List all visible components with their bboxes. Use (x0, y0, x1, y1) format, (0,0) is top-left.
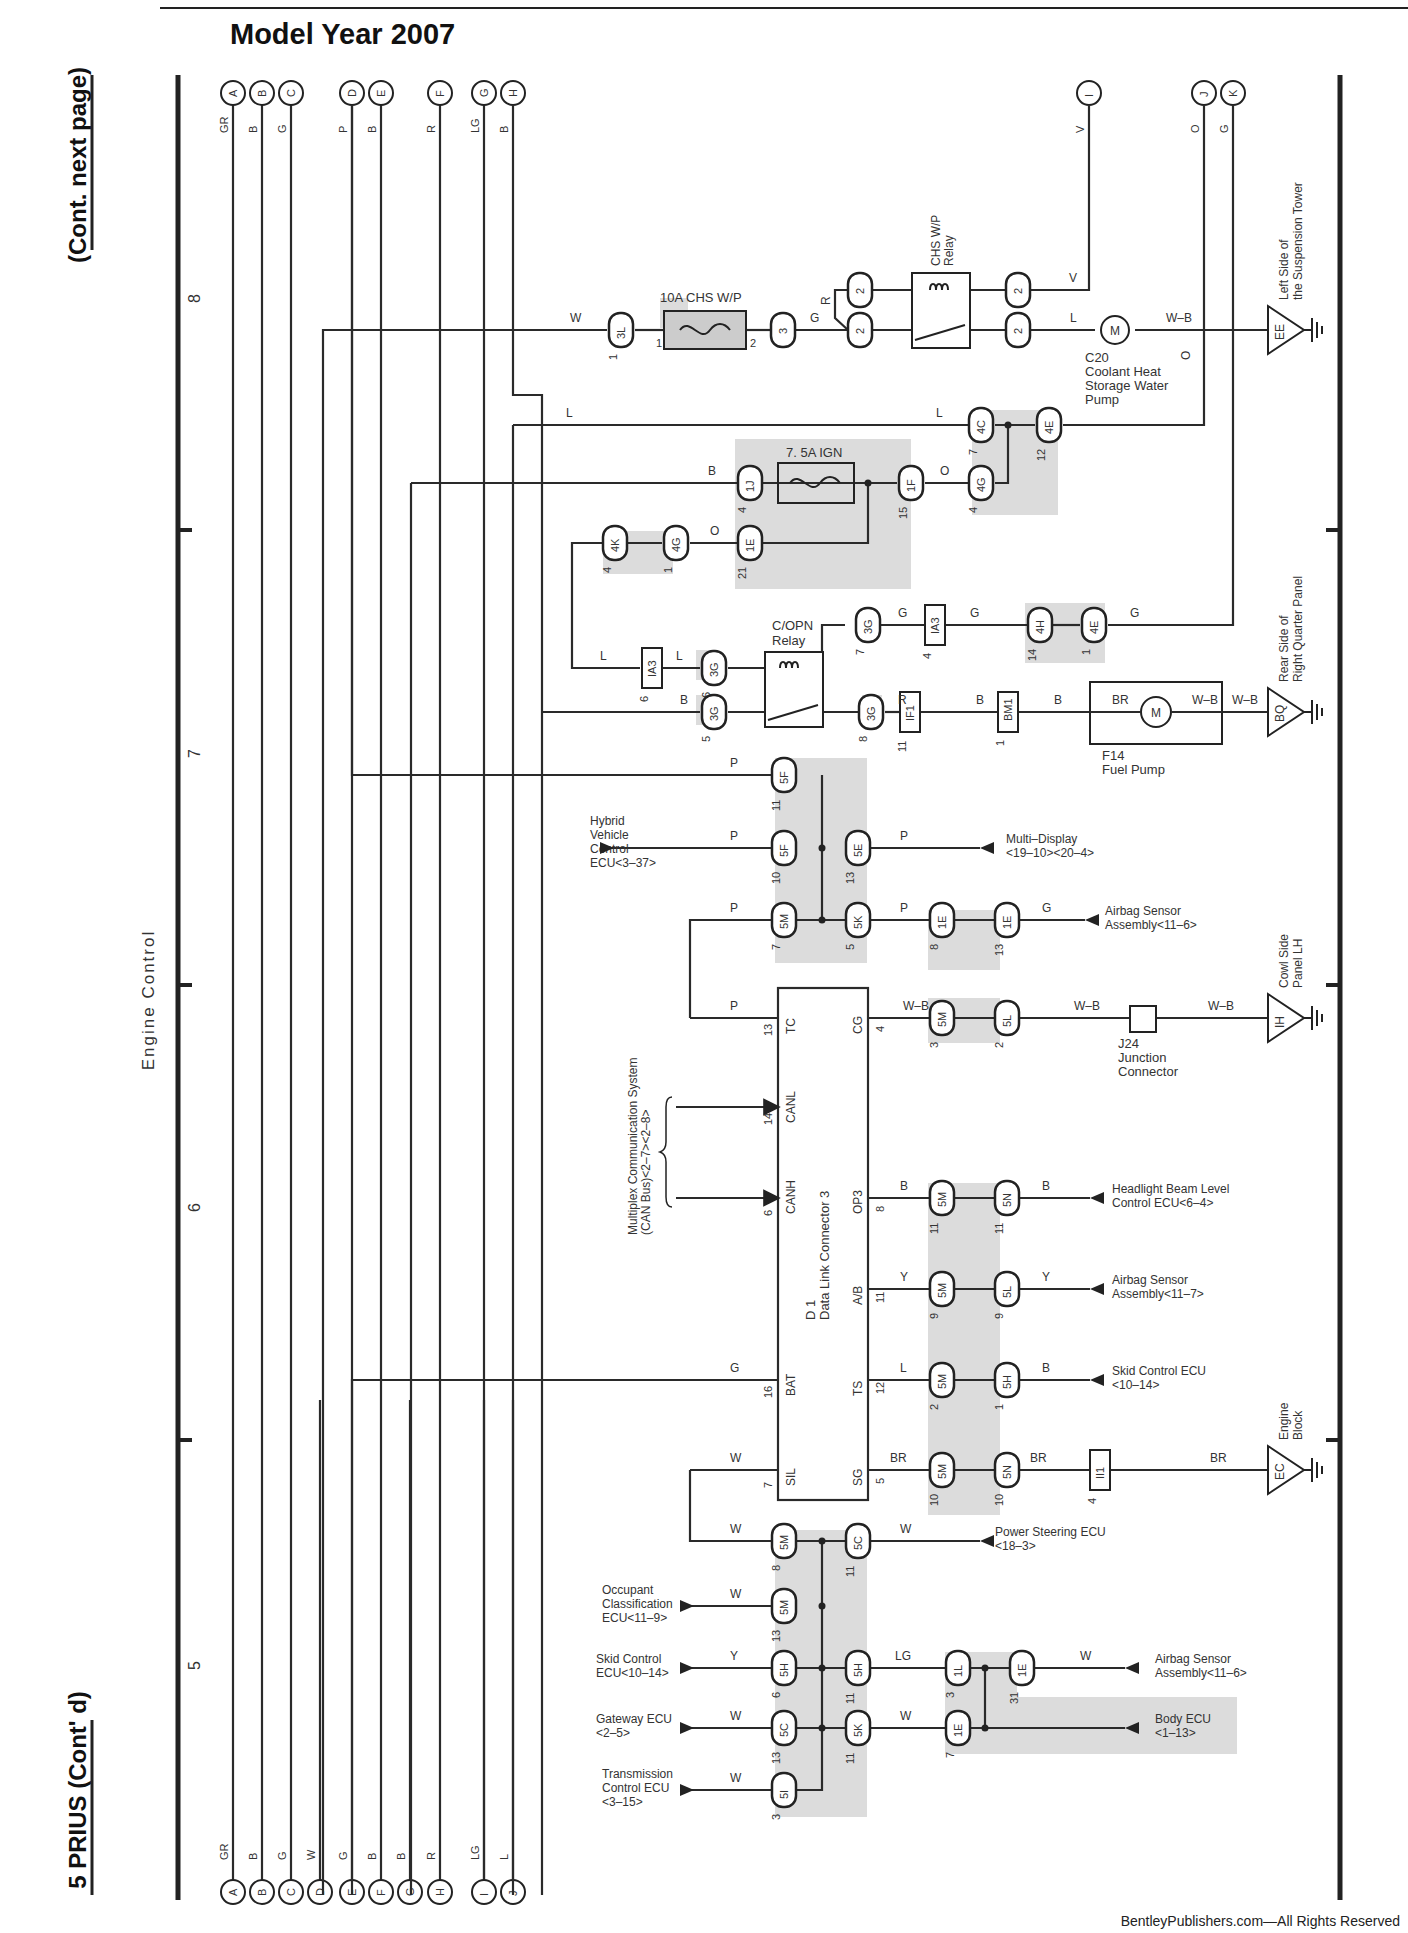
terminal-bottom-A[interactable]: AGR (218, 1843, 245, 1904)
ref-skid-r[interactable]: Skid Control ECU<10–14> (1090, 1364, 1206, 1392)
svg-text:Control ECU<6–4>: Control ECU<6–4> (1112, 1196, 1213, 1210)
terminal-bottom-B[interactable]: BB (247, 1853, 274, 1904)
connector-pin: 3 (770, 1814, 782, 1820)
terminal-bottom-G[interactable]: GB (395, 1853, 422, 1904)
connector-pin: 31 (1008, 1692, 1020, 1704)
terminal-wire-color: G (337, 1851, 349, 1860)
ref-occupant[interactable]: OccupantClassificationECU<11–9> (602, 1583, 694, 1625)
terminal-wire-color: W (305, 1849, 317, 1860)
wire-color-label: G (810, 311, 819, 325)
terminal-top-C[interactable]: CG (276, 81, 303, 133)
terminal-bottom-I[interactable]: ILG (469, 1845, 496, 1904)
connector-3l: 3L1 (607, 313, 633, 360)
terminal-top-A[interactable]: AGR (218, 81, 245, 133)
terminal-wire-color: GR (218, 116, 230, 133)
wire-color-label: W (730, 1451, 742, 1465)
connector-pin: 7 (967, 449, 979, 455)
wire-color-label: BR (1030, 1451, 1047, 1465)
wire-color-label: W (1080, 1649, 1092, 1663)
terminal-top-K[interactable]: KG (1218, 81, 1245, 133)
ref-skid-l[interactable]: Skid ControlECU<10–14> (596, 1652, 694, 1680)
ground-location: Left Side of (1277, 239, 1291, 300)
connector-code: 3L (615, 327, 627, 339)
connector-pin: 7 (854, 649, 866, 655)
dlc-pin-number: 11 (874, 1292, 886, 1303)
ref-airbag-1[interactable]: Airbag SensorAssembly<11–6> (1085, 904, 1197, 932)
ref-airbag-2[interactable]: Airbag SensorAssembly<11–7> (1090, 1273, 1204, 1301)
connector-pin: 3 (944, 1692, 956, 1698)
terminal-top-G[interactable]: GLG (469, 81, 496, 133)
terminal-wire-color: B (395, 1853, 407, 1860)
svg-text:Assembly<11–6>: Assembly<11–6> (1155, 1666, 1247, 1680)
wire-color-label: G (730, 1361, 739, 1375)
connector-ii1: II14 (1086, 1450, 1110, 1504)
terminal-top-J[interactable]: JO (1189, 81, 1216, 133)
terminal-letter: C (285, 1888, 297, 1896)
connector-code: 1E (952, 1724, 964, 1737)
connector-pin: 5 (700, 736, 712, 742)
dlc-pin-name: CG (851, 1016, 865, 1034)
terminal-top-D[interactable]: DP (337, 81, 364, 133)
terminal-top-F[interactable]: FR (425, 81, 452, 133)
wire-color-label: W (730, 1771, 742, 1785)
wire-color-label: BR (1210, 1451, 1227, 1465)
wire-color-label: Y (1042, 1270, 1050, 1284)
ground-bq: BQRear Side ofRight Quarter Panel (1268, 576, 1322, 736)
connector-code: 5N (1001, 1193, 1013, 1207)
ref-multi-display[interactable]: Multi–Display<19–10><20–4> (980, 832, 1094, 860)
continued-label: (Cont. next page) (64, 67, 91, 263)
terminal-bottom-E[interactable]: EG (337, 1851, 364, 1904)
svg-text:Assembly<11–6>: Assembly<11–6> (1105, 918, 1197, 932)
wire-color-label: P (730, 756, 738, 770)
svg-text:Skid Control: Skid Control (596, 1652, 661, 1666)
terminal-top-I[interactable]: IV (1074, 81, 1101, 133)
dlc-pin-name: CANL (784, 1091, 798, 1123)
terminal-top-E[interactable]: EB (366, 81, 393, 133)
connector-code: 1L (952, 1665, 964, 1677)
ref-headlight[interactable]: Headlight Beam LevelControl ECU<6–4> (1090, 1182, 1229, 1210)
connector-code: 5H (852, 1663, 864, 1677)
connector-3g: 3G8 (857, 695, 883, 742)
connector-pin: 13 (844, 872, 856, 884)
ref-gateway[interactable]: Gateway ECU<2–5> (596, 1712, 694, 1740)
connector-code: IA3 (929, 617, 941, 634)
wire-color-label: B (1042, 1361, 1050, 1375)
connector-code: 5M (778, 1600, 790, 1615)
wire-color-label: W (900, 1709, 912, 1723)
ref-transmission[interactable]: TransmissionControl ECU<3–15> (602, 1767, 694, 1809)
dlc-pin-name: CANH (784, 1180, 798, 1214)
page-title: Model Year 2007 (230, 18, 455, 50)
ground-location: the Suspension Tower (1291, 182, 1305, 300)
terminal-bottom-H[interactable]: HR (425, 1852, 452, 1904)
grid-number: 6 (186, 1203, 203, 1212)
ref-airbag-3[interactable]: Airbag SensorAssembly<11–6> (1125, 1652, 1247, 1680)
connector-code: 1E (1001, 916, 1013, 929)
wire-color-label: B (680, 693, 688, 707)
terminal-bottom-F[interactable]: FB (366, 1853, 393, 1904)
terminal-bottom-C[interactable]: CG (276, 1851, 303, 1904)
connector-code: 3G (865, 706, 877, 721)
connector-5n: 5N10 (993, 1453, 1019, 1506)
svg-text:D 1: D 1 (803, 1300, 818, 1320)
connector-pin: 4 (601, 567, 613, 573)
terminal-bottom-J[interactable]: JL (498, 1854, 525, 1904)
wire-color-label: W–B (1166, 311, 1192, 325)
fuse-10a-chs: 10A CHS W/P 1 2 (656, 290, 756, 349)
svg-text:Relay: Relay (772, 633, 806, 648)
terminal-top-B[interactable]: BB (247, 81, 274, 133)
ref-power-steering[interactable]: Power Steering ECU<18–3> (980, 1525, 1106, 1553)
wire-color-label: P (900, 829, 908, 843)
terminal-bottom-D[interactable]: DW (305, 1849, 332, 1904)
svg-text:F14: F14 (1102, 748, 1124, 763)
connector-code: BM1 (1002, 698, 1014, 721)
ref-hybrid[interactable]: HybridVehicleControlECU<3–37> (590, 814, 656, 870)
terminal-wire-color: G (276, 1851, 288, 1860)
svg-text:Occupant: Occupant (602, 1583, 654, 1597)
terminal-top-H[interactable]: HB (498, 81, 525, 133)
connector-code: 4G (975, 477, 987, 492)
terminal-wire-color: B (366, 126, 378, 133)
connector-ia3: IA34 (921, 605, 945, 659)
connector-code: 5M (936, 1012, 948, 1027)
svg-text:Fuel Pump: Fuel Pump (1102, 762, 1165, 777)
connector-1e: 1E31 (1008, 1651, 1034, 1704)
